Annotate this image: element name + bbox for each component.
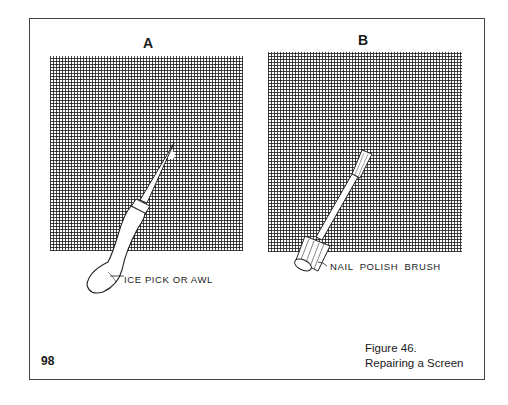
- brush-caption: NAIL POLISH BRUSH: [330, 261, 441, 272]
- page-number: 98: [41, 354, 54, 368]
- figure-title: Repairing a Screen: [365, 356, 463, 371]
- figure-caption: Figure 46. Repairing a Screen: [365, 341, 463, 371]
- figure-number: Figure 46.: [365, 341, 463, 356]
- ice-pick-caption: ICE PICK OR AWL: [124, 274, 213, 285]
